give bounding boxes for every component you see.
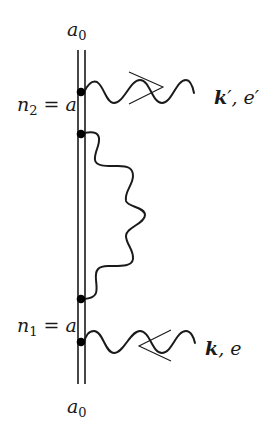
electron-double-line (78, 50, 85, 384)
lower-vertex-label: n1 = a (17, 314, 77, 339)
incoming-photon-arrow-icon (139, 330, 171, 361)
outgoing-photon-label: k′, e′ (214, 86, 260, 108)
feynman-diagram: a0 n2 = a n1 = a k′, e′ k, e a0 (0, 0, 268, 435)
upper-vertex-label: n2 = a (17, 93, 77, 118)
outgoing-photon-arrow-icon (129, 72, 163, 104)
bottom-state-label: a0 (67, 395, 87, 420)
internal-photon-loop (84, 132, 145, 299)
vertex-loop-top (77, 130, 86, 139)
vertex-incoming-photon (77, 338, 86, 347)
vertex-outgoing-photon (77, 88, 86, 97)
incoming-photon-line (84, 331, 195, 353)
top-state-label: a0 (67, 18, 87, 43)
vertex-loop-bottom (77, 295, 86, 304)
incoming-photon-label: k, e (205, 337, 242, 359)
